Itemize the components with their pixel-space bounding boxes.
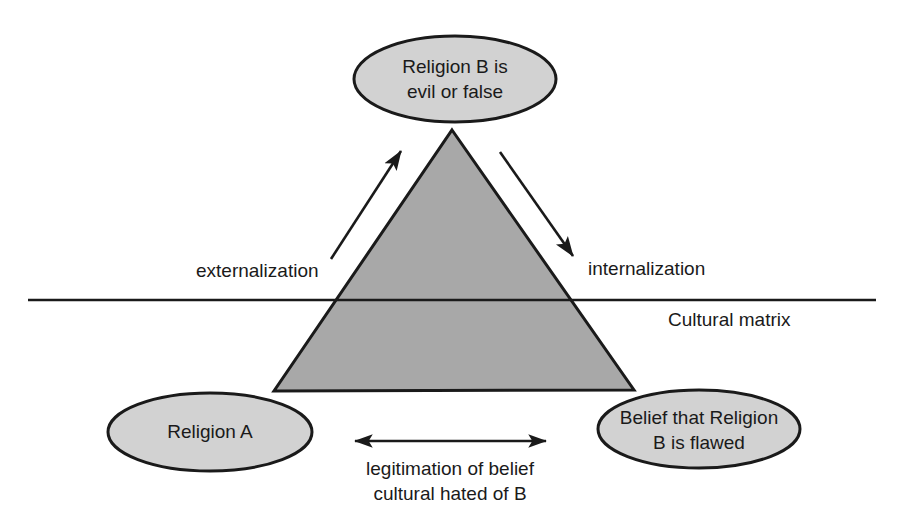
node-religion-b-evil-label-line1: Religion B is <box>402 56 508 77</box>
cultural-matrix-label: Cultural matrix <box>668 309 791 330</box>
node-belief-religion-b-flawed-label-line1: Belief that Religion <box>620 407 778 428</box>
node-religion-b-evil[interactable]: Religion B is evil or false <box>354 36 556 122</box>
node-religion-a-label: Religion A <box>167 421 253 442</box>
diagram-svg: Cultural matrix externalization internal… <box>0 0 904 521</box>
node-religion-b-evil-shape <box>354 36 556 122</box>
node-religion-b-evil-label-line2: evil or false <box>407 81 503 102</box>
legitimation-label-line2: cultural hated of B <box>373 483 526 504</box>
node-belief-religion-b-flawed[interactable]: Belief that Religion B is flawed <box>598 390 800 468</box>
node-belief-religion-b-flawed-label-line2: B is flawed <box>653 432 745 453</box>
externalization-label: externalization <box>196 260 319 281</box>
legitimation-label-line1: legitimation of belief <box>366 458 535 479</box>
triangle-shape <box>274 130 634 391</box>
diagram-canvas: Cultural matrix externalization internal… <box>0 0 904 521</box>
node-belief-religion-b-flawed-shape <box>598 390 800 468</box>
internalization-label: internalization <box>588 258 705 279</box>
node-religion-a[interactable]: Religion A <box>108 393 312 471</box>
